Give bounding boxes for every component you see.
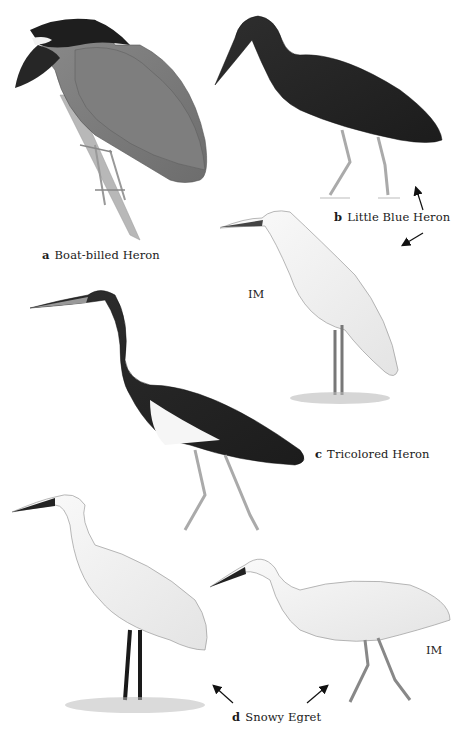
arrow-icon — [416, 188, 423, 210]
boat-billed-heron-illustration — [15, 19, 207, 240]
label-tricolored-heron: cTricolored Heron — [315, 447, 430, 461]
field-guide-plate: aBoat-billed Heron bLittle Blue Heron cT… — [0, 0, 462, 737]
label-snowy-egret: dSnowy Egret — [232, 710, 321, 724]
snowy-egret-adult-illustration — [12, 495, 207, 713]
label-boat-billed-heron: aBoat-billed Heron — [42, 248, 160, 262]
label-little-blue-heron: bLittle Blue Heron — [334, 210, 450, 224]
immature-label-little-blue-heron: IM — [248, 287, 264, 301]
tricolored-heron-illustration — [30, 291, 304, 531]
little-blue-heron-immature-illustration — [220, 211, 398, 404]
little-blue-heron-adult-illustration — [215, 16, 442, 198]
arrow-icon — [307, 686, 327, 703]
immature-label-snowy-egret: IM — [426, 643, 442, 657]
snowy-egret-immature-illustration — [210, 559, 450, 702]
bird-illustrations — [0, 0, 462, 737]
arrow-icon — [214, 686, 233, 703]
arrow-icon — [403, 233, 423, 245]
